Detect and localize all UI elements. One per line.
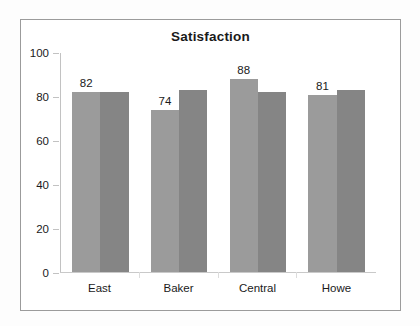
bar-value-label: 88 [237, 64, 250, 76]
bar-pair: 81 [308, 53, 365, 272]
y-axis-label: 40 [36, 179, 49, 191]
y-axis-label: 0 [43, 267, 49, 279]
bar[interactable] [337, 90, 365, 272]
chart-frame: Satisfaction 020406080100 82748881 EastB… [20, 19, 401, 311]
y-axis-label: 80 [36, 91, 49, 103]
bar-value-label: 74 [159, 95, 172, 107]
bar[interactable]: 81 [308, 95, 336, 272]
plot-area: 020406080100 82748881 [60, 53, 376, 273]
bar[interactable]: 88 [230, 79, 258, 272]
x-axis-label: East [60, 282, 139, 294]
x-axis-label: Baker [139, 282, 218, 294]
x-axis-label: Howe [297, 282, 376, 294]
y-axis-label: 60 [36, 135, 49, 147]
category-divider-tick [296, 272, 297, 278]
x-axis-label: Central [218, 282, 297, 294]
bar-group: 82 [61, 53, 140, 272]
bar[interactable]: 74 [151, 110, 179, 272]
chart-title: Satisfaction [21, 29, 400, 44]
bar-pair: 74 [151, 53, 208, 272]
y-axis-tick [53, 229, 59, 230]
y-axis-tick [53, 141, 59, 142]
bar-pair: 88 [230, 53, 287, 272]
bar[interactable] [258, 92, 286, 272]
y-axis-tick [53, 273, 59, 274]
bar-value-label: 81 [316, 80, 329, 92]
bar[interactable]: 82 [72, 92, 100, 272]
chart-screenshot: Satisfaction 020406080100 82748881 EastB… [0, 0, 420, 326]
bar-value-label: 82 [80, 77, 93, 89]
x-axis-labels: EastBakerCentralHowe [60, 282, 376, 294]
bar-group: 81 [297, 53, 376, 272]
y-axis-tick [53, 97, 59, 98]
bar-group: 88 [219, 53, 298, 272]
y-axis-tick [53, 53, 59, 54]
category-divider-tick [139, 272, 140, 278]
y-axis-label: 20 [36, 223, 49, 235]
y-axis-tick [53, 185, 59, 186]
category-divider-tick [218, 272, 219, 278]
bar[interactable] [100, 92, 128, 272]
y-axis-label: 100 [30, 47, 49, 59]
bar-pair: 82 [72, 53, 129, 272]
bar-groups: 82748881 [61, 53, 376, 272]
bar-group: 74 [140, 53, 219, 272]
bar[interactable] [179, 90, 207, 272]
